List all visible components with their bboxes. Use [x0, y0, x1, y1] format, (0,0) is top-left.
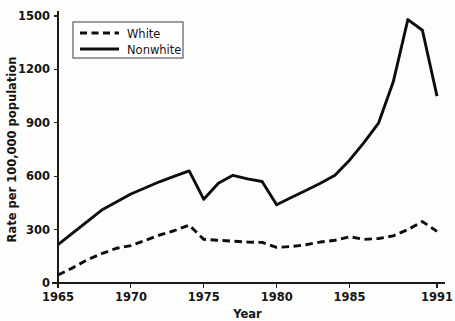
chart-legend: WhiteNonwhite — [73, 22, 183, 58]
legend-label-white: White — [127, 27, 160, 41]
y-tick-label: 900 — [26, 116, 50, 130]
y-tick-label: 1500 — [18, 9, 50, 23]
legend-label-nonwhite: Nonwhite — [127, 43, 181, 57]
y-axis-ticks: 030060090012001500 — [18, 9, 58, 290]
x-tick-label: 1975 — [188, 290, 220, 304]
y-axis-title: Rate per 100,000 population — [5, 57, 19, 243]
x-tick-label: 1991 — [421, 290, 453, 304]
x-tick-label: 1980 — [261, 290, 293, 304]
x-axis-ticks: 196519701975198019851991 — [42, 283, 453, 304]
y-tick-label: 300 — [26, 223, 50, 237]
series-line-white — [58, 222, 437, 275]
x-axis-title: Year — [232, 307, 262, 321]
y-tick-label: 1200 — [18, 62, 50, 76]
y-tick-label: 600 — [26, 169, 50, 183]
x-tick-label: 1970 — [115, 290, 147, 304]
x-tick-label: 1965 — [42, 290, 74, 304]
y-tick-label: 0 — [42, 276, 50, 290]
x-tick-label: 1985 — [334, 290, 366, 304]
line-chart: 030060090012001500 196519701975198019851… — [0, 0, 455, 321]
chart-page: 030060090012001500 196519701975198019851… — [0, 0, 455, 321]
